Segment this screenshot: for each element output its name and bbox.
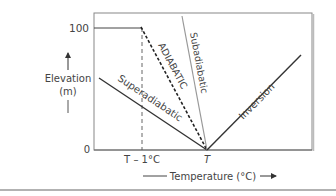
y-axis-unit: (m) xyxy=(59,86,77,97)
subadiabatic-label: Subadiabatic xyxy=(188,31,210,94)
adiabatic-label: ADIABATIC xyxy=(156,41,190,91)
x-axis-label: Temperature (°C) xyxy=(169,171,256,182)
superadiabatic-label: Superadiabatic xyxy=(116,73,185,124)
y-tick-0: 0 xyxy=(84,144,90,155)
y-axis-label: Elevation xyxy=(45,73,91,84)
lapse-rate-diagram: 100 0 Elevation (m) T – 1°C T Temperatur… xyxy=(0,0,336,196)
x-tick-t-minus-1: T – 1°C xyxy=(123,154,160,165)
x-tick-t: T xyxy=(204,154,211,165)
y-tick-100: 100 xyxy=(69,22,89,34)
superadiabatic-line xyxy=(99,78,207,150)
inversion-label: Inversion xyxy=(237,81,277,121)
